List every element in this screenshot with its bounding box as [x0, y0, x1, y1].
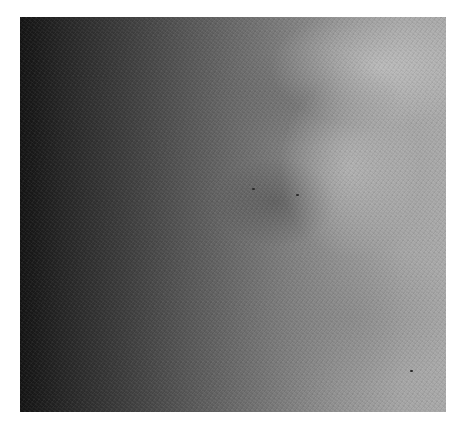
grayscale-scan-image [20, 17, 446, 412]
dark-speck [410, 370, 413, 372]
dark-speck [296, 194, 299, 196]
dark-speck [252, 188, 255, 190]
